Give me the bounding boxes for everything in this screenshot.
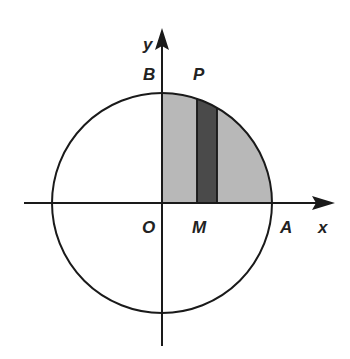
label-M: M (192, 218, 207, 237)
label-B: B (143, 65, 155, 84)
label-A: A (279, 218, 292, 237)
label-x: x (317, 218, 329, 237)
label-P: P (193, 65, 205, 84)
circle-diagram: y B P O M A x (0, 0, 350, 359)
shaded-strip (197, 80, 217, 203)
label-O: O (142, 218, 155, 237)
label-y: y (142, 35, 154, 54)
